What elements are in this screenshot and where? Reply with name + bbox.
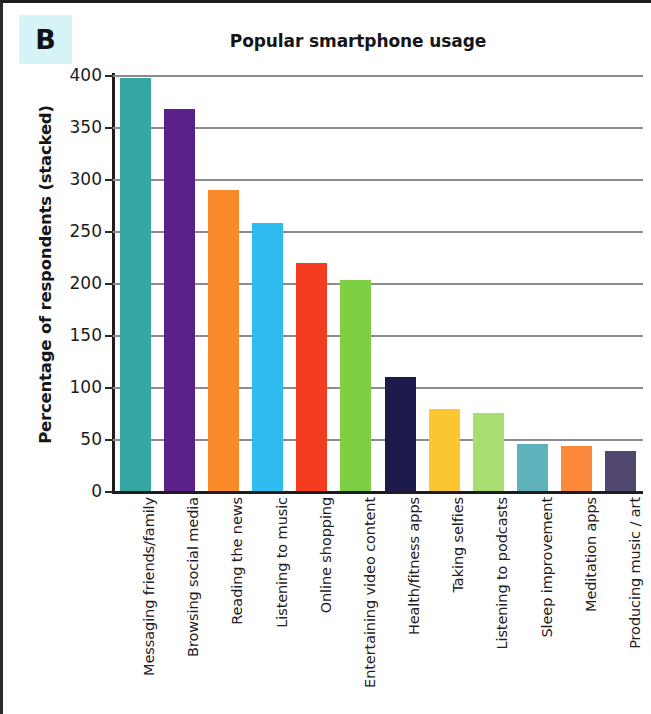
panel-letter: B: [35, 26, 56, 53]
y-tick-mark: [105, 335, 113, 337]
bar: [561, 446, 592, 491]
x-axis-label: Taking selfies: [450, 497, 466, 592]
bar: [517, 444, 548, 491]
x-axis-category-labels: Messaging friends/familyBrowsing social …: [113, 497, 643, 712]
y-tick-label: 250: [70, 221, 102, 241]
gridline: [113, 75, 643, 77]
y-tick-label: 400: [70, 65, 102, 85]
bar: [208, 190, 239, 491]
x-axis-label: Entertaining video content: [362, 497, 378, 688]
x-axis-label: Sleep improvement: [539, 497, 555, 637]
x-axis-label: Online shopping: [318, 497, 334, 613]
y-tick-label: 100: [70, 377, 102, 397]
x-axis-label: Listening to podcasts: [494, 497, 510, 650]
y-tick-mark: [105, 75, 113, 77]
bar: [473, 413, 504, 491]
y-tick-label: 0: [91, 481, 102, 501]
x-axis-label: Listening to music: [274, 497, 290, 628]
x-axis-label: Producing music / art: [627, 497, 643, 649]
y-tick-label: 300: [70, 169, 102, 189]
y-tick-label: 150: [70, 325, 102, 345]
plot-area: 400350300250200150100500: [113, 75, 643, 491]
y-tick-mark: [105, 179, 113, 181]
figure-panel: B Popular smartphone usage Percentage of…: [0, 0, 651, 714]
x-axis-label: Health/fitness apps: [406, 497, 422, 635]
y-tick-label: 350: [70, 117, 102, 137]
y-tick-mark: [105, 283, 113, 285]
y-tick-mark: [105, 491, 113, 493]
bar: [296, 263, 327, 491]
y-tick-mark: [105, 127, 113, 129]
bar: [605, 451, 636, 491]
x-axis-label: Browsing social media: [185, 497, 201, 657]
panel-letter-badge: B: [19, 15, 72, 64]
bar: [164, 109, 195, 491]
bar: [385, 377, 416, 491]
chart-title: Popular smartphone usage: [123, 31, 593, 51]
x-axis-label: Messaging friends/family: [141, 497, 157, 676]
x-axis-label: Reading the news: [229, 497, 245, 625]
y-tick-label: 50: [80, 429, 102, 449]
y-axis-title: Percentage of respondents (stacked): [36, 65, 55, 485]
bar: [429, 409, 460, 491]
x-axis-line: [112, 491, 643, 494]
y-tick-label: 200: [70, 273, 102, 293]
x-axis-label: Meditation apps: [583, 497, 599, 612]
bar: [340, 280, 371, 491]
bar: [252, 223, 283, 491]
y-tick-mark: [105, 231, 113, 233]
y-tick-mark: [105, 439, 113, 441]
y-tick-mark: [105, 387, 113, 389]
bar: [120, 78, 151, 491]
